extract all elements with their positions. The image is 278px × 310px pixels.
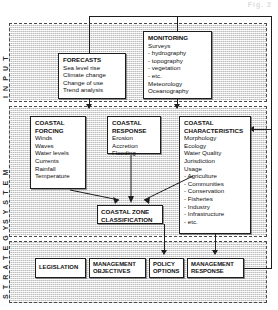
line-forcing-to-classification xyxy=(70,190,119,200)
line-characteristics-to-classification xyxy=(144,176,193,200)
arrow-to-management-response xyxy=(212,250,218,255)
arrow-to-policy-options xyxy=(161,250,167,255)
policy-options-line2: OPTIONS xyxy=(153,268,181,275)
management-response-line1: MANAGEMENT xyxy=(191,261,241,268)
management-objectives-line1: MANAGEMENT xyxy=(93,261,143,268)
box-legislation: LEGISLATION xyxy=(35,258,86,278)
management-objectives-line2: OBJECTIVES xyxy=(93,268,143,275)
coastal-zone-classification-line1: COASTAL ZONE xyxy=(101,208,160,216)
line-classification-stub xyxy=(164,224,165,225)
coastal-zone-management-diagram: I N P U T S Y S T E M S T R A T E G Y FO… xyxy=(0,0,278,310)
arrow-response-to-classification xyxy=(128,196,134,203)
box-management-objectives: MANAGEMENT OBJECTIVES xyxy=(89,258,146,278)
arrow-forcing-to-classification xyxy=(113,197,119,204)
box-coastal-zone-classification: COASTAL ZONE CLASSIFICATION xyxy=(97,205,163,224)
box-management-response: MANAGEMENT RESPONSE xyxy=(187,258,244,278)
management-response-line2: RESPONSE xyxy=(191,268,241,275)
legislation-line1: LEGISLATION xyxy=(39,264,83,271)
line-classification-to-policy xyxy=(164,224,165,253)
box-policy-options: POLICY OPTIONS xyxy=(149,258,184,278)
policy-options-line1: POLICY xyxy=(153,261,181,268)
coastal-zone-classification-line2: CLASSIFICATION xyxy=(101,216,160,224)
